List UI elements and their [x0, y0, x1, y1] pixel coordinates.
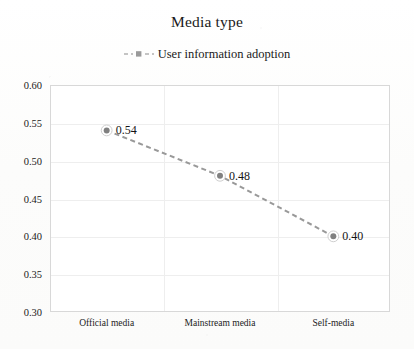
legend-item-user-information-adoption: User information adoption — [124, 46, 291, 62]
chart-legend: User information adoption — [0, 46, 414, 62]
plot-area — [50, 85, 390, 312]
y-axis-tick-label: 0.30 — [8, 307, 42, 318]
data-point-label: 0.40 — [342, 229, 363, 244]
x-axis-tick-label: Self-media — [312, 318, 354, 328]
y-axis-tick-label: 0.45 — [8, 193, 42, 204]
gridline-horizontal — [51, 162, 389, 163]
gridline-vertical — [164, 86, 165, 311]
gridline-horizontal — [51, 275, 389, 276]
data-point-label: 0.54 — [116, 123, 137, 138]
chart-figure: Media type User information adoption 0.6… — [0, 0, 414, 349]
x-axis-tick-label: Mainstream media — [185, 318, 256, 328]
gridline-horizontal — [51, 124, 389, 125]
legend-label-user-information-adoption: User information adoption — [158, 47, 291, 62]
gridline-vertical — [278, 86, 279, 311]
chart-title: Media type — [0, 13, 414, 31]
gridline-horizontal — [51, 237, 389, 238]
gridline-horizontal — [51, 200, 389, 201]
y-axis-tick-label: 0.50 — [8, 155, 42, 166]
legend-marker-icon — [124, 48, 154, 60]
data-point-label: 0.48 — [229, 168, 250, 183]
x-axis-tick-label: Official media — [79, 318, 134, 328]
y-axis-tick-label: 0.60 — [8, 80, 42, 91]
y-axis-tick-label: 0.55 — [8, 117, 42, 128]
y-axis-tick-label: 0.40 — [8, 231, 42, 242]
y-axis-tick-label: 0.35 — [8, 269, 42, 280]
